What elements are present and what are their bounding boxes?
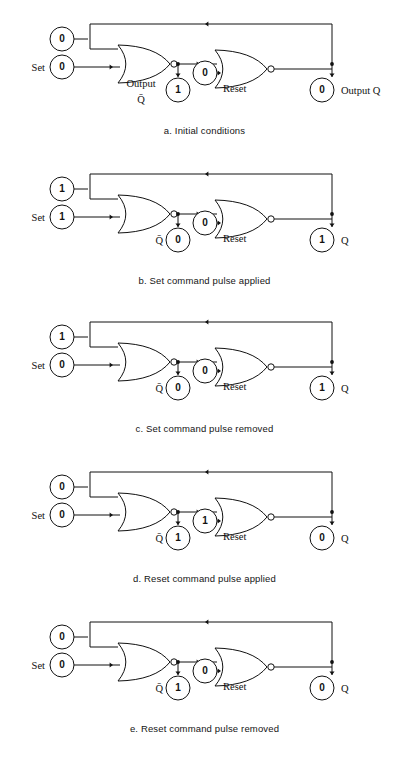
nor-gate-2-bubble-icon	[268, 514, 274, 520]
nor-gate-2-bubble-icon	[268, 66, 274, 72]
q-value: 0	[319, 682, 325, 693]
qbar-drop-arrow-icon	[175, 224, 180, 227]
top-input-value: 1	[59, 331, 65, 342]
reset-input-value: 0	[202, 365, 208, 376]
nor-gate-2-bubble-icon	[268, 664, 274, 670]
q-drop-arrow-icon	[329, 74, 334, 77]
q-drop-arrow-icon	[329, 372, 334, 375]
qbar-drop-arrow-icon	[175, 522, 180, 525]
feedback-wire	[90, 622, 332, 662]
feedback-wire	[90, 24, 332, 64]
figure-e: 0 Set 0 1 Q̄ 0 Reset	[0, 600, 409, 734]
qbar-value: 0	[175, 234, 181, 245]
reset-input-value: 0	[202, 67, 208, 78]
qbar-output-label-line1: Output	[126, 78, 155, 89]
q-output-label: Q	[341, 533, 349, 544]
latch-diagram-c: 1 Set 0 0 Q̄ 0 Reset	[0, 300, 409, 422]
qbar-value: 1	[175, 84, 181, 95]
figure-caption-d: d. Reset command pulse applied	[0, 573, 409, 584]
reset-arrow-icon	[218, 668, 221, 673]
qbar-drop-arrow-icon	[175, 672, 180, 675]
set-input-arrow-icon	[110, 214, 113, 219]
feedback-wire	[90, 322, 332, 362]
reset-input-value: 0	[202, 217, 208, 228]
nor-gate-1-back	[118, 45, 126, 83]
q-drop-arrow-icon	[329, 522, 334, 525]
feedback-arrow-icon	[205, 469, 208, 474]
latch-diagram-a: 0 Set 0 1 Output Q̄ 0 Reset	[0, 2, 409, 124]
set-label: Set	[32, 510, 46, 521]
figure-caption-b: b. Set command pulse applied	[0, 275, 409, 286]
set-input-arrow-icon	[110, 662, 113, 667]
qbar-value: 1	[175, 532, 181, 543]
top-input-value: 0	[59, 631, 65, 642]
reset-arrow-icon	[218, 518, 221, 523]
figure-caption-c: c. Set command pulse removed	[0, 423, 409, 434]
feedback-wire	[90, 472, 332, 512]
reset-arrow-icon	[218, 70, 221, 75]
q-output-label: Q	[341, 383, 349, 394]
set-label: Set	[32, 360, 46, 371]
nor-gate-2-bubble-icon	[268, 364, 274, 370]
q-output-label: Q	[341, 235, 349, 246]
figure-c: 1 Set 0 0 Q̄ 0 Reset	[0, 300, 409, 434]
set-label: Set	[32, 660, 46, 671]
q-drop-arrow-icon	[329, 672, 334, 675]
feedback-arrow-icon	[205, 21, 208, 26]
top-input-value: 0	[59, 33, 65, 44]
qbar-drop-arrow-icon	[175, 372, 180, 375]
nor-gate-1-back	[118, 343, 126, 381]
feedback-arrow-icon	[205, 319, 208, 324]
q-drop-arrow-icon	[329, 224, 334, 227]
nor-gate-2-bubble-icon	[268, 216, 274, 222]
qbar-value: 1	[175, 682, 181, 693]
q-value: 1	[319, 234, 325, 245]
top-input-value: 1	[59, 183, 65, 194]
set-input-value: 0	[59, 659, 65, 670]
figure-caption-e: e. Reset command pulse removed	[0, 723, 409, 734]
figure-a: 0 Set 0 1 Output Q̄ 0 Reset	[0, 2, 409, 136]
q-output-label: Q	[341, 683, 349, 694]
q-output-label: Output Q	[341, 85, 381, 96]
q-value: 1	[319, 382, 325, 393]
q-value: 0	[319, 532, 325, 543]
set-input-value: 0	[59, 359, 65, 370]
latch-diagram-d: 0 Set 0 1 Q̄ 1 Reset	[0, 450, 409, 572]
feedback-arrow-icon	[205, 171, 208, 176]
top-input-value: 0	[59, 481, 65, 492]
figure-d: 0 Set 0 1 Q̄ 1 Reset	[0, 450, 409, 584]
figure-b: 1 Set 1 0 Q̄ 0 Reset	[0, 152, 409, 286]
set-input-arrow-icon	[110, 362, 113, 367]
reset-input-value: 0	[202, 665, 208, 676]
reset-arrow-icon	[218, 368, 221, 373]
latch-diagram-b: 1 Set 1 0 Q̄ 0 Reset	[0, 152, 409, 274]
reset-arrow-icon	[218, 220, 221, 225]
feedback-wire	[90, 174, 332, 214]
set-input-value: 0	[59, 61, 65, 72]
set-label: Set	[32, 62, 46, 73]
figure-caption-a: a. Initial conditions	[0, 125, 409, 136]
qbar-output-label: Q̄	[155, 235, 163, 246]
set-input-arrow-icon	[110, 64, 113, 69]
qbar-output-label: Q̄	[155, 383, 163, 394]
qbar-output-label: Q̄	[155, 683, 163, 694]
qbar-value: 0	[175, 382, 181, 393]
nor-gate-1-back	[118, 493, 126, 531]
set-input-arrow-icon	[110, 512, 113, 517]
nor-gate-1-back	[118, 643, 126, 681]
qbar-output-label: Q̄	[155, 533, 163, 544]
qbar-drop-arrow-icon	[175, 74, 180, 77]
nor-gate-1-back	[118, 195, 126, 233]
set-input-value: 1	[59, 211, 65, 222]
feedback-arrow-icon	[205, 619, 208, 624]
q-value: 0	[319, 84, 325, 95]
set-input-value: 0	[59, 509, 65, 520]
reset-input-value: 1	[202, 515, 208, 526]
set-label: Set	[32, 212, 46, 223]
latch-diagram-e: 0 Set 0 1 Q̄ 0 Reset	[0, 600, 409, 722]
qbar-output-label-line2: Q̄	[137, 94, 145, 105]
